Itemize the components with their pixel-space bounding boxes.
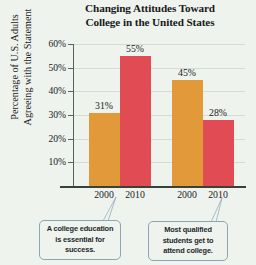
callout-1-line-1: A college education [40,224,120,235]
callout-1-line-3: success. [40,245,120,256]
chart-figure: Changing Attitudes Toward College in the… [0,0,256,265]
callout-box-statement-1: A college education is essential for suc… [39,220,121,260]
callout-1-tail [103,197,116,221]
callout-1-line-2: is essential for [40,235,120,246]
callout-2-line-1: Most qualified [149,225,227,236]
callout-2-tail [211,198,222,222]
callout-2-line-3: attend college. [149,246,227,257]
callout-2-line-2: students get to [149,236,227,247]
callout-box-statement-2: Most qualified students get to attend co… [148,221,228,261]
